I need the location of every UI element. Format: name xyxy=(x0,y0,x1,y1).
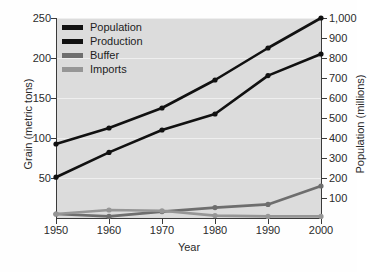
data-point xyxy=(212,213,217,218)
legend-swatch-icon xyxy=(62,25,83,30)
data-point xyxy=(265,45,270,50)
data-point xyxy=(53,141,58,146)
legend-item-buffer[interactable]: Buffer xyxy=(62,48,143,62)
x-axis-title: Year xyxy=(56,241,322,253)
data-point xyxy=(106,150,111,155)
data-point xyxy=(318,183,323,188)
legend-swatch-icon xyxy=(62,53,83,58)
data-point xyxy=(53,175,58,180)
data-point xyxy=(53,211,58,216)
data-point xyxy=(159,105,164,110)
data-point xyxy=(106,125,111,130)
data-point xyxy=(212,205,217,210)
data-point xyxy=(318,51,323,56)
legend-item-imports[interactable]: Imports xyxy=(62,62,143,76)
data-point xyxy=(159,208,164,213)
y-axis-left-title: Grain (metric tons) xyxy=(22,44,34,204)
legend-swatch-icon xyxy=(62,39,83,44)
data-point xyxy=(106,214,111,219)
data-point xyxy=(212,77,217,82)
data-point xyxy=(265,214,270,219)
legend-item-label: Population xyxy=(90,21,142,33)
data-point xyxy=(212,111,217,116)
chart-legend: PopulationProductionBufferImports xyxy=(62,20,143,76)
y-axis-right-title: Population (millions) xyxy=(354,44,366,204)
data-point xyxy=(318,15,323,20)
legend-item-label: Imports xyxy=(90,63,127,75)
legend-swatch-icon xyxy=(62,67,83,72)
data-point xyxy=(159,127,164,132)
data-point xyxy=(318,214,323,219)
legend-item-production[interactable]: Production xyxy=(62,34,143,48)
data-point xyxy=(265,73,270,78)
legend-item-population[interactable]: Population xyxy=(62,20,143,34)
legend-item-label: Buffer xyxy=(90,49,119,61)
data-point xyxy=(106,207,111,212)
data-point xyxy=(265,202,270,207)
legend-item-label: Production xyxy=(90,35,143,47)
